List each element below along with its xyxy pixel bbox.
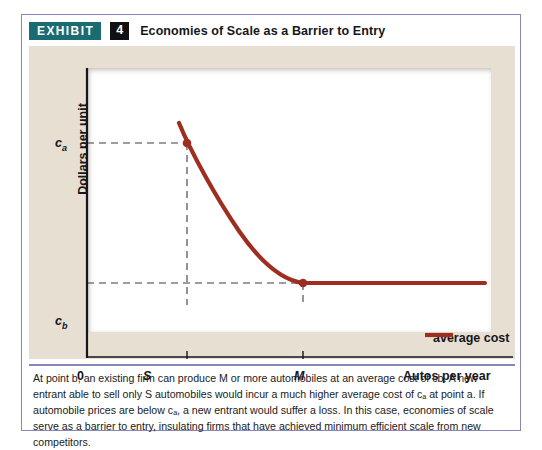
exhibit-header: EXHIBIT 4 Economies of Scale as a Barrie… (22, 15, 520, 46)
y-tick-label-ca: ca (55, 136, 67, 153)
exhibit-title: Economies of Scale as a Barrier to Entry (140, 24, 385, 38)
y-tick-label-cb: cb (55, 314, 67, 331)
y-tick-cb-base: c (55, 314, 62, 328)
y-tick-ca-base: c (55, 136, 62, 150)
exhibit-caption: At point b, an existing firm can produce… (33, 370, 511, 450)
y-tick-cb-sub: b (62, 321, 68, 331)
figure-panel: Dollars per unit ca cb 0 S M Autos per y… (29, 46, 515, 359)
exhibit-badge: EXHIBIT (29, 22, 101, 40)
caption-divider (29, 364, 515, 366)
plot-surface (87, 68, 491, 332)
long-run-average-cost-curve (179, 123, 485, 283)
chart-svg (87, 68, 491, 332)
exhibit-card: EXHIBIT 4 Economies of Scale as a Barrie… (21, 14, 521, 431)
data-point-b (299, 279, 308, 288)
exhibit-number-badge: 4 (110, 22, 129, 40)
data-point-a (183, 139, 192, 148)
y-tick-ca-sub: a (62, 143, 67, 153)
